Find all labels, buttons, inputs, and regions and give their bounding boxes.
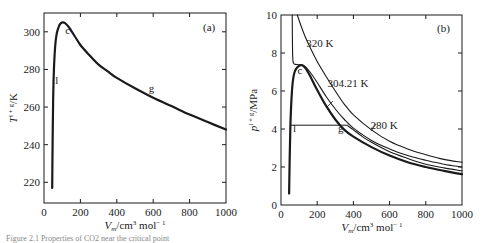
- y-tick-label: 4: [272, 123, 278, 135]
- y-tick-label: 300: [24, 26, 41, 38]
- y-tick-label: 6: [272, 85, 278, 97]
- panel-b-annotations: 320 K304.21 K280 Kclg: [293, 37, 398, 134]
- x-tick-label: 800: [418, 208, 435, 220]
- y-tick-label: 0: [272, 199, 278, 211]
- annotation-label: 280 K: [371, 119, 398, 131]
- y-tick-label: 10: [266, 9, 278, 21]
- annotation-label: g: [338, 122, 344, 134]
- panel-a-tag: (a): [203, 21, 216, 34]
- annotation-label: c: [65, 24, 70, 36]
- panel-a-temperature-vs-volume: 02004006008001000 220240260280300 clg (a…: [7, 13, 238, 233]
- chart-canvas: 02004006008001000 220240260280300 clg (a…: [0, 0, 482, 243]
- x-tick-label: 0: [278, 208, 284, 220]
- y-tick-label: 280: [24, 63, 41, 75]
- annotation-label: g: [149, 82, 155, 94]
- x-tick-label: 1000: [451, 208, 474, 220]
- x-tick-label: 400: [345, 208, 362, 220]
- y-tick-label: 260: [24, 101, 41, 113]
- figure: 02004006008001000 220240260280300 clg (a…: [0, 0, 482, 243]
- panel-b-y-axis-label: pl + g/MPa: [247, 89, 259, 132]
- panel-b-tag: (b): [437, 22, 450, 35]
- y-tick-label: 8: [272, 47, 278, 59]
- annotation-label: 320 K: [306, 37, 333, 49]
- x-tick-label: 600: [145, 206, 162, 218]
- annotation-label: c: [298, 64, 303, 76]
- panel-a-y-axis-label: Tl + g/K: [7, 93, 19, 123]
- annotation-label: 304.21 K: [327, 77, 368, 89]
- panel-b-pressure-vs-volume: 02004006008001000 0246810 320 K304.21 K2…: [247, 9, 474, 235]
- figure-caption: Figure 2.1 Properties of CO2 near the cr…: [6, 234, 169, 243]
- panel-b-x-axis-label: Vm/cm3 mol− 1: [342, 221, 403, 235]
- y-tick-label: 2: [272, 161, 278, 173]
- series-line-coexistence-curve: [52, 22, 226, 188]
- x-tick-label: 600: [381, 208, 398, 220]
- annotation-label: l: [293, 122, 296, 134]
- y-tick-label: 220: [24, 176, 41, 188]
- x-tick-label: 800: [181, 206, 198, 218]
- panel-a-frame: [44, 13, 226, 203]
- x-tick-label: 0: [41, 206, 47, 218]
- x-tick-label: 1000: [215, 206, 238, 218]
- x-tick-label: 400: [109, 206, 126, 218]
- panel-a-x-ticks: 02004006008001000: [41, 13, 237, 218]
- x-tick-label: 200: [309, 208, 326, 220]
- y-tick-label: 240: [24, 139, 41, 151]
- panel-a-x-axis-label: Vm/cm3 mol− 1: [105, 219, 166, 233]
- panel-a-annotations: clg: [55, 24, 154, 94]
- panel-b-y-ticks: 0246810: [266, 9, 462, 211]
- panel-a-curves: [52, 22, 226, 188]
- x-tick-label: 200: [72, 206, 89, 218]
- annotation-label: l: [55, 74, 58, 86]
